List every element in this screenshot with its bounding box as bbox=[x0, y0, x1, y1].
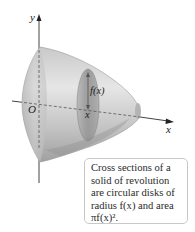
y-axis-arrow-icon bbox=[37, 14, 42, 21]
caption-line-1: Cross sections of a bbox=[91, 162, 183, 175]
x-axis-label: x bbox=[166, 124, 171, 135]
solid-of-revolution-figure: y x O f(x) x Cross sections of a solid o… bbox=[0, 0, 195, 232]
origin-label: O bbox=[28, 104, 36, 115]
caption-box: Cross sections of a solid of revolution … bbox=[84, 158, 188, 224]
y-axis-label: y bbox=[30, 12, 35, 23]
position-label: x bbox=[85, 110, 90, 121]
caption-line-2: solid of revolution bbox=[91, 175, 183, 188]
caption-line-4: radius f(x) and area bbox=[91, 200, 183, 213]
x-axis-right bbox=[140, 117, 168, 121]
caption-line-5: πf(x)². bbox=[91, 212, 183, 225]
caption-line-3: are circular disks of bbox=[91, 187, 183, 200]
radius-label: f(x) bbox=[90, 86, 105, 97]
